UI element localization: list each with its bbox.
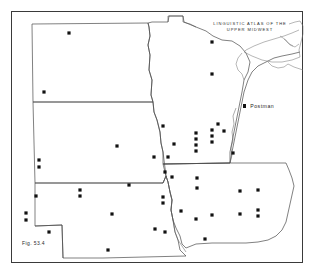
data-point — [161, 124, 164, 127]
data-point — [256, 214, 259, 217]
data-point — [203, 237, 206, 240]
data-point — [170, 175, 173, 178]
data-point — [67, 31, 70, 34]
duluth-inlet — [236, 53, 244, 80]
state-nebraska — [35, 176, 186, 258]
figure-caption: Fig. 53.4 — [22, 240, 45, 246]
data-point — [110, 212, 113, 215]
data-point — [238, 212, 241, 215]
data-point — [231, 151, 234, 154]
data-point — [210, 128, 213, 131]
data-point — [256, 208, 259, 211]
data-point — [163, 230, 166, 233]
data-point — [210, 40, 213, 43]
filled-square-dot-icon — [243, 104, 246, 107]
data-point — [210, 72, 213, 75]
state-iowa — [163, 163, 294, 248]
data-point — [172, 142, 175, 145]
data-point — [115, 144, 118, 147]
data-point — [24, 218, 27, 221]
data-point — [127, 183, 130, 186]
state-north-dakota — [32, 23, 153, 102]
data-point — [47, 230, 50, 233]
data-point — [37, 158, 40, 161]
legend: Postman — [243, 103, 274, 109]
data-point — [216, 122, 219, 125]
state-south-dakota — [33, 102, 166, 183]
lake-superior-south-shore — [244, 52, 300, 62]
data-point — [195, 176, 198, 179]
data-point — [179, 209, 182, 212]
data-point — [152, 155, 155, 158]
lake-of-the-woods-notch — [168, 16, 183, 22]
data-point — [78, 188, 81, 191]
data-point — [238, 189, 241, 192]
data-point — [195, 186, 198, 189]
data-point — [210, 140, 213, 143]
keweenaw-peninsula — [280, 36, 299, 47]
data-point — [256, 188, 259, 191]
data-point — [210, 213, 213, 216]
map-graphic — [0, 0, 314, 277]
map-title-line-1: LINGUISTIC ATLAS OF THE — [205, 21, 295, 26]
data-point — [163, 170, 166, 173]
legend-label: Postman — [250, 103, 274, 109]
data-point — [42, 90, 45, 93]
data-point — [210, 134, 213, 137]
lake-edge-right — [299, 21, 303, 57]
data-point — [161, 195, 164, 198]
data-point — [106, 248, 109, 251]
data-point — [34, 194, 37, 197]
data-point — [78, 194, 81, 197]
map-title-line-2: UPPER MIDWEST — [205, 27, 295, 32]
lake-superior-bay-detail — [268, 62, 288, 68]
state-boundaries — [32, 16, 300, 258]
border-minnesota-iowa — [163, 163, 230, 164]
data-point — [161, 201, 164, 204]
data-point — [24, 211, 27, 214]
data-point — [194, 131, 197, 134]
data-point — [194, 143, 197, 146]
missouri-river-ne — [163, 176, 186, 252]
data-point — [37, 165, 40, 168]
figure-panel: LINGUISTIC ATLAS OF THE UPPER MIDWEST Po… — [0, 0, 314, 277]
data-point-layer — [24, 31, 259, 251]
data-point — [153, 227, 156, 230]
lake-superior-north-shore — [246, 30, 299, 50]
data-point — [166, 155, 169, 158]
keweenaw-inner — [284, 39, 293, 46]
data-point — [194, 149, 197, 152]
data-point — [222, 129, 225, 132]
state-minnesota — [148, 16, 250, 164]
data-point — [194, 137, 197, 140]
data-point — [194, 217, 197, 220]
michigan-shore-lower — [288, 64, 303, 70]
